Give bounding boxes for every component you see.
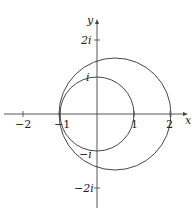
x-axis-label: x	[185, 114, 192, 127]
tick-label-2: 2	[166, 118, 173, 131]
tick-label-neg-i: −i	[79, 148, 92, 161]
tick-label-neg2: −2	[15, 118, 31, 131]
tick-label-1: 1	[131, 118, 138, 131]
tick-label-i: i	[86, 71, 90, 84]
tick-label-2i: 2i	[80, 34, 92, 47]
tick-label-neg1: −1	[54, 118, 70, 131]
complex-plane-diagram: y x −2 −1 1 2 2i i −i −2i	[0, 0, 192, 211]
y-axis-arrow-icon	[95, 19, 99, 24]
y-axis-label: y	[86, 14, 94, 27]
tick-label-neg2i: −2i	[74, 182, 94, 195]
